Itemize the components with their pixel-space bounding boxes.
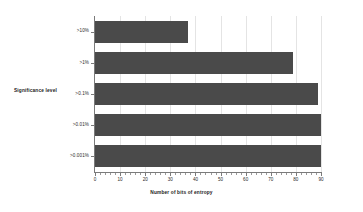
x-minor-tick-mark [311,173,312,175]
x-tick-label: 10 [118,178,123,183]
y-tick-label: >1% [79,61,89,66]
x-axis-title: Number of bits of entropy [0,190,363,195]
x-minor-tick-mark [276,173,277,175]
x-minor-tick-mark [175,173,176,175]
x-minor-tick-mark [105,173,106,175]
x-minor-tick-mark [226,173,227,175]
x-tick-label: 50 [218,178,223,183]
x-tick-mark [195,173,196,176]
plot-area [95,16,321,172]
bar-row [95,52,321,74]
x-tick-label: 30 [168,178,173,183]
x-minor-tick-mark [155,173,156,175]
x-minor-tick-mark [291,173,292,175]
y-tick-label: >0.1% [75,92,89,97]
x-minor-tick-mark [241,173,242,175]
x-minor-tick-mark [160,173,161,175]
y-tick-label: >0.01% [73,123,89,128]
y-axis-title: Significance level [14,88,57,93]
bar [95,21,188,43]
x-minor-tick-mark [100,173,101,175]
x-minor-tick-mark [251,173,252,175]
x-tick-label: 90 [318,178,323,183]
y-tick-mark [91,125,94,126]
bar-row [95,21,321,43]
x-minor-tick-mark [301,173,302,175]
bar [95,52,293,74]
x-minor-tick-mark [205,173,206,175]
x-minor-tick-mark [236,173,237,175]
x-minor-tick-mark [125,173,126,175]
x-tick-label: 70 [268,178,273,183]
x-minor-tick-mark [185,173,186,175]
bar-row [95,83,321,105]
x-minor-tick-mark [200,173,201,175]
x-minor-tick-mark [266,173,267,175]
x-minor-tick-mark [165,173,166,175]
x-minor-tick-mark [261,173,262,175]
bar [95,145,321,167]
x-tick-mark [246,173,247,176]
x-minor-tick-mark [306,173,307,175]
x-tick-mark [170,173,171,176]
x-minor-tick-mark [130,173,131,175]
x-axis-tick-labels: 0102030405060708090 [0,173,363,189]
x-minor-tick-mark [110,173,111,175]
x-tick-mark [271,173,272,176]
x-minor-tick-mark [190,173,191,175]
y-tick-label: >0.001% [70,154,89,159]
x-minor-tick-mark [256,173,257,175]
y-tick-mark [91,156,94,157]
bar [95,83,318,105]
bar-row [95,114,321,136]
x-tick-mark [95,173,96,176]
x-minor-tick-mark [140,173,141,175]
x-minor-tick-mark [281,173,282,175]
x-tick-mark [145,173,146,176]
y-axis-tick-labels: >10%>1%>0.1%>0.01%>0.001% [0,16,89,172]
x-tick-label: 20 [143,178,148,183]
x-minor-tick-mark [216,173,217,175]
y-tick-mark [91,32,94,33]
x-minor-tick-mark [115,173,116,175]
y-tick-mark [91,94,94,95]
bar-row [95,145,321,167]
x-minor-tick-mark [286,173,287,175]
x-tick-mark [221,173,222,176]
gridline [321,16,322,172]
x-minor-tick-mark [180,173,181,175]
y-tick-mark [91,63,94,64]
y-tick-label: >10% [77,29,89,34]
x-minor-tick-mark [231,173,232,175]
x-minor-tick-mark [316,173,317,175]
x-tick-label: 60 [243,178,248,183]
x-tick-label: 40 [193,178,198,183]
x-minor-tick-mark [211,173,212,175]
x-tick-label: 80 [293,178,298,183]
x-tick-mark [296,173,297,176]
x-minor-tick-mark [135,173,136,175]
x-minor-tick-mark [150,173,151,175]
bar [95,114,321,136]
x-tick-mark [321,173,322,176]
x-tick-mark [120,173,121,176]
bar-chart-figure: >10%>1%>0.1%>0.01%>0.001% 01020304050607… [0,0,363,212]
x-tick-label: 0 [94,178,97,183]
